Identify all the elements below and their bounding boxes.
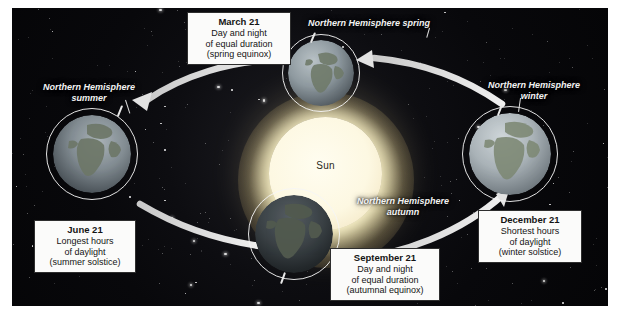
star xyxy=(467,60,468,61)
star xyxy=(136,107,137,108)
star xyxy=(201,251,202,252)
season-label-spring: Northern Hemisphere spring xyxy=(308,18,430,29)
star xyxy=(195,282,197,284)
star xyxy=(572,67,573,68)
star xyxy=(571,161,572,162)
info-box-september-line1: Day and night xyxy=(336,264,434,275)
star xyxy=(453,85,454,86)
star xyxy=(549,72,550,73)
info-box-december-line1: Shortest hours xyxy=(484,226,576,237)
star xyxy=(441,185,442,186)
star xyxy=(198,75,199,76)
star xyxy=(592,58,593,59)
star xyxy=(447,81,448,82)
star xyxy=(50,29,51,30)
star xyxy=(208,222,209,223)
star xyxy=(185,183,186,184)
star xyxy=(200,213,201,214)
star xyxy=(252,285,253,286)
star xyxy=(475,305,476,306)
star xyxy=(604,89,605,90)
star xyxy=(159,283,160,284)
star xyxy=(160,123,162,125)
star xyxy=(197,222,198,223)
star xyxy=(587,45,588,46)
star xyxy=(429,88,430,89)
star xyxy=(263,99,265,101)
star xyxy=(34,205,35,206)
star xyxy=(164,149,166,151)
info-box-september: September 21 Day and night of equal dura… xyxy=(330,248,440,301)
star xyxy=(162,253,163,254)
star xyxy=(553,183,554,184)
star xyxy=(424,177,425,178)
season-label-summer-line2: summer xyxy=(71,93,106,103)
star xyxy=(141,207,142,208)
star xyxy=(42,191,43,192)
star xyxy=(435,37,436,38)
season-label-autumn: Northern Hemisphere autumn xyxy=(342,196,464,218)
star xyxy=(558,177,559,178)
star xyxy=(16,186,18,188)
star xyxy=(190,254,191,255)
star xyxy=(29,118,30,119)
star xyxy=(109,65,110,66)
star xyxy=(193,240,195,242)
star xyxy=(364,34,365,35)
star xyxy=(23,154,24,155)
globe-autumn xyxy=(255,195,333,273)
star xyxy=(159,9,161,11)
star xyxy=(486,42,487,43)
info-box-june-line3: (summer solstice) xyxy=(40,257,130,268)
seasons-diagram: Sun xyxy=(0,0,620,314)
star xyxy=(127,71,128,72)
star xyxy=(471,268,472,269)
star xyxy=(46,106,47,107)
star xyxy=(224,253,226,255)
season-label-summer: Northern Hemisphere summer xyxy=(30,82,148,104)
star xyxy=(209,218,210,219)
star xyxy=(245,243,246,244)
star xyxy=(607,157,608,158)
star xyxy=(205,143,206,144)
star xyxy=(603,143,604,144)
info-box-june-date: June 21 xyxy=(40,224,130,235)
star xyxy=(440,176,441,177)
star xyxy=(570,267,571,268)
star xyxy=(217,86,219,88)
star xyxy=(236,229,237,230)
star xyxy=(144,28,145,29)
info-box-march-line1: Day and night xyxy=(193,28,285,39)
globe-summer xyxy=(53,115,131,193)
season-label-spring-line1: Northern Hemisphere spring xyxy=(308,18,430,28)
globe-landmass-autumn xyxy=(255,195,333,273)
star xyxy=(156,213,157,214)
star xyxy=(512,283,513,284)
info-box-december: December 21 Shortest hours of daylight (… xyxy=(478,210,582,263)
star xyxy=(549,204,551,206)
star xyxy=(205,212,206,213)
star xyxy=(162,72,163,73)
star xyxy=(299,300,300,301)
star xyxy=(147,45,148,46)
star xyxy=(29,277,30,278)
star xyxy=(408,104,409,105)
star xyxy=(458,138,459,139)
star xyxy=(45,132,46,133)
sun-label: Sun xyxy=(269,160,382,171)
star xyxy=(596,238,597,239)
star xyxy=(595,289,596,290)
star xyxy=(531,300,532,301)
season-label-summer-line1: Northern Hemisphere xyxy=(43,82,135,92)
star xyxy=(467,21,468,22)
star xyxy=(148,239,149,240)
leader-spring xyxy=(426,28,430,38)
star xyxy=(153,142,154,143)
info-box-march-line3: (spring equinox) xyxy=(193,49,285,60)
star xyxy=(164,200,166,202)
star xyxy=(254,280,255,281)
star xyxy=(171,217,173,219)
star xyxy=(594,290,595,291)
star xyxy=(177,10,178,11)
star xyxy=(158,249,159,250)
